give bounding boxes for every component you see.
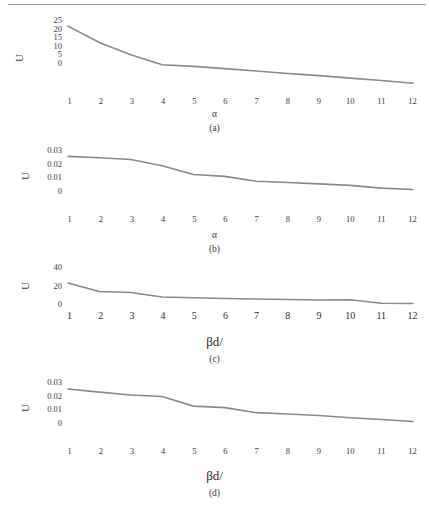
x-tick-label: 10	[335, 446, 366, 456]
x-axis-ticks-b: 1 2 3 4 5 6 7 8 9 10 11 12	[54, 214, 428, 224]
y-tick-label: 0.01	[26, 405, 62, 414]
panel-caption-c: (c)	[0, 354, 429, 364]
x-tick-label: 7	[241, 446, 272, 456]
y-tick-label: 20	[26, 282, 62, 291]
x-tick-label: 5	[179, 310, 210, 321]
x-tick-label: 9	[303, 214, 334, 224]
x-tick-label: 11	[366, 310, 397, 321]
x-tick-label: 5	[179, 214, 210, 224]
x-tick-label: 1	[54, 96, 85, 106]
x-tick-label: 8	[272, 446, 303, 456]
x-axis-title-b: α	[0, 230, 429, 240]
y-tick-label: 0	[26, 419, 62, 428]
x-tick-label: 9	[303, 310, 334, 321]
x-tick-label: 6	[210, 214, 241, 224]
chart-panel-a: U 25 20 15 10 5 0 1 2 3 4 5 6 7 8 9 10 1…	[0, 10, 429, 130]
x-axis-ticks-a: 1 2 3 4 5 6 7 8 9 10 11 12	[54, 96, 428, 106]
y-axis-ticks-d: 0.03 0.02 0.01 0	[26, 378, 62, 427]
y-tick-label: 0	[26, 59, 62, 68]
x-tick-label: 6	[210, 446, 241, 456]
x-tick-label: 12	[397, 96, 428, 106]
plot-area-c	[68, 265, 413, 305]
y-axis-ticks-a: 25 20 15 10 5 0	[26, 16, 62, 67]
x-tick-label: 6	[210, 310, 241, 321]
x-axis-ticks-c: 1 2 3 4 5 6 7 8 9 10 11 12	[54, 310, 428, 321]
x-tick-label: 5	[179, 96, 210, 106]
x-tick-label: 7	[241, 96, 272, 106]
x-tick-label: 3	[116, 214, 147, 224]
y-tick-label: 10	[26, 42, 62, 51]
x-tick-label: 2	[85, 446, 116, 456]
y-axis-label-a: U	[13, 45, 25, 71]
plot-area-d	[68, 380, 413, 436]
x-tick-label: 4	[148, 310, 179, 321]
chart-panel-b: U 0.03 0.02 0.01 0 1 2 3 4 5 6 7 8 9 10 …	[0, 140, 429, 258]
line-chart-a	[68, 18, 413, 86]
x-tick-label: 4	[148, 446, 179, 456]
y-tick-label: 40	[26, 263, 62, 272]
x-tick-label: 7	[241, 310, 272, 321]
x-tick-label: 10	[335, 214, 366, 224]
x-tick-label: 2	[85, 96, 116, 106]
x-axis-ticks-d: 1 2 3 4 5 6 7 8 9 10 11 12	[54, 446, 428, 456]
x-tick-label: 11	[366, 446, 397, 456]
chart-panel-d: U 0.03 0.02 0.01 0 1 2 3 4 5 6 7 8 9 10 …	[0, 372, 429, 497]
x-axis-title-c: βd/	[0, 334, 429, 350]
y-axis-ticks-b: 0.03 0.02 0.01 0	[26, 146, 62, 195]
x-tick-label: 8	[272, 310, 303, 321]
x-tick-label: 3	[116, 310, 147, 321]
y-tick-label: 0	[26, 187, 62, 196]
plot-area-a	[68, 18, 413, 86]
x-tick-label: 1	[54, 214, 85, 224]
panel-caption-a: (a)	[0, 123, 429, 133]
x-tick-label: 8	[272, 214, 303, 224]
x-tick-label: 3	[116, 446, 147, 456]
line-chart-b	[68, 148, 413, 204]
x-tick-label: 12	[397, 446, 428, 456]
x-tick-label: 7	[241, 214, 272, 224]
y-tick-label: 0.03	[26, 378, 62, 387]
x-axis-title-a: α	[0, 109, 429, 119]
line-chart-d	[68, 380, 413, 436]
x-tick-label: 8	[272, 96, 303, 106]
x-tick-label: 4	[148, 96, 179, 106]
x-tick-label: 2	[85, 214, 116, 224]
plot-area-b	[68, 148, 413, 204]
y-tick-label: 0.02	[26, 160, 62, 169]
x-tick-label: 12	[397, 310, 428, 321]
y-tick-label: 0.03	[26, 146, 62, 155]
x-tick-label: 10	[335, 310, 366, 321]
x-tick-label: 11	[366, 96, 397, 106]
y-tick-label: 0.01	[26, 173, 62, 182]
x-tick-label: 12	[397, 214, 428, 224]
y-tick-label: 0	[26, 300, 62, 309]
x-tick-label: 6	[210, 96, 241, 106]
y-axis-ticks-c: 40 20 0	[26, 263, 62, 309]
x-tick-label: 4	[148, 214, 179, 224]
panel-caption-d: (d)	[0, 488, 429, 498]
x-tick-label: 10	[335, 96, 366, 106]
panel-caption-b: (b)	[0, 244, 429, 254]
x-tick-label: 1	[54, 446, 85, 456]
x-tick-label: 2	[85, 310, 116, 321]
x-tick-label: 1	[54, 310, 85, 321]
x-axis-title-d: βd/	[0, 468, 429, 484]
x-tick-label: 9	[303, 96, 334, 106]
x-tick-label: 3	[116, 96, 147, 106]
y-tick-label: 0.02	[26, 392, 62, 401]
x-tick-label: 9	[303, 446, 334, 456]
y-tick-label: 5	[26, 50, 62, 59]
top-divider-rule	[8, 4, 426, 5]
line-chart-c	[68, 265, 413, 305]
chart-panel-c: U 40 20 0 1 2 3 4 5 6 7 8 9 10 11 12 βd/…	[0, 258, 429, 370]
x-tick-label: 5	[179, 446, 210, 456]
x-tick-label: 11	[366, 214, 397, 224]
